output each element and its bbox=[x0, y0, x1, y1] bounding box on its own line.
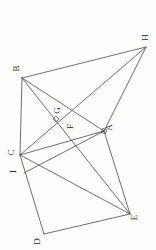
segment-C-H bbox=[20, 47, 146, 155]
segment-B-C bbox=[20, 78, 22, 155]
segment-C-E bbox=[20, 155, 130, 214]
vertex-label-I: I bbox=[9, 170, 18, 173]
vertex-label-F: F bbox=[66, 124, 75, 129]
segment-C-D bbox=[20, 155, 44, 234]
vertex-label-H: H bbox=[141, 34, 150, 41]
segments-group bbox=[20, 47, 146, 234]
right-angle-marks-group bbox=[53, 116, 107, 134]
segment-B-A bbox=[22, 78, 104, 131]
geometry-figure-canvas: A B C D E F G H I り、 の とこ 交点 はF をと bbox=[0, 0, 156, 250]
figure-svg bbox=[0, 0, 156, 250]
segment-A-H bbox=[104, 47, 146, 131]
segment-C-A bbox=[20, 131, 104, 155]
vertex-label-G: G bbox=[53, 107, 62, 114]
segment-A-E bbox=[104, 131, 130, 214]
vertex-label-A: A bbox=[105, 124, 114, 131]
vertex-label-C: C bbox=[7, 149, 16, 155]
vertex-label-B: B bbox=[12, 65, 21, 71]
vertex-label-E: E bbox=[130, 215, 139, 221]
segment-D-E bbox=[44, 214, 130, 234]
vertex-label-D: D bbox=[33, 238, 42, 245]
